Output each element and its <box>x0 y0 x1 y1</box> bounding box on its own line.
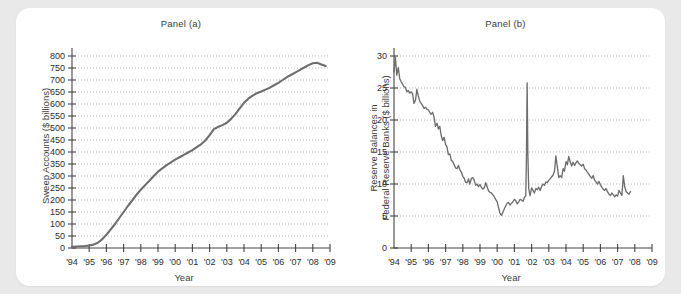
y-tick-label: 10 <box>377 179 387 189</box>
x-tick-label: '02 <box>204 257 216 267</box>
y-tick-label: 400 <box>50 147 65 157</box>
x-tick-label: '99 <box>152 257 164 267</box>
x-tick-label: '94 <box>66 257 78 267</box>
y-tick-label: 600 <box>50 99 65 109</box>
x-tick-label: '01 <box>187 257 199 267</box>
panel-b-x-axis-label: Year <box>366 272 656 283</box>
x-tick-label: '95 <box>405 257 417 267</box>
panel-b-plot: 051015202530'94'95'96'97'98'99'00'01'02'… <box>346 8 665 286</box>
y-tick-label: 25 <box>377 83 387 93</box>
y-tick-label: 0 <box>60 243 65 253</box>
x-tick-label: '08 <box>629 257 641 267</box>
data-series-line <box>72 63 326 247</box>
y-tick-label: 300 <box>50 171 65 181</box>
x-tick-label: '04 <box>560 257 572 267</box>
y-tick-label: 200 <box>50 195 65 205</box>
x-tick-label: '01 <box>509 257 521 267</box>
data-series-line <box>394 57 631 215</box>
x-tick-label: '03 <box>543 257 555 267</box>
y-tick-label: 250 <box>50 183 65 193</box>
x-tick-label: '07 <box>612 257 624 267</box>
x-tick-label: '96 <box>423 257 435 267</box>
x-tick-label: '04 <box>238 257 250 267</box>
x-tick-label: '09 <box>324 257 336 267</box>
x-tick-label: '05 <box>577 257 589 267</box>
x-tick-label: '99 <box>474 257 486 267</box>
x-tick-label: '00 <box>169 257 181 267</box>
y-tick-label: 750 <box>50 63 65 73</box>
panel-b: Panel (b) Reserve Balances in Federal Re… <box>346 8 665 286</box>
y-tick-label: 450 <box>50 135 65 145</box>
x-tick-label: '97 <box>440 257 452 267</box>
y-tick-label: 15 <box>377 147 387 157</box>
x-tick-label: '07 <box>290 257 302 267</box>
y-tick-label: 800 <box>50 51 65 61</box>
y-tick-label: 500 <box>50 123 65 133</box>
x-tick-label: '96 <box>101 257 113 267</box>
figure-card: Panel (a) Sweep Accounts ($ billions) 05… <box>16 8 665 286</box>
panel-a-plot: 0501001502002503003504004505005506006507… <box>16 8 346 286</box>
x-tick-label: '98 <box>457 257 469 267</box>
panel-a-x-axis-label: Year <box>34 272 334 283</box>
y-tick-label: 550 <box>50 111 65 121</box>
y-tick-label: 50 <box>55 231 65 241</box>
y-tick-label: 100 <box>50 219 65 229</box>
x-tick-label: '98 <box>135 257 147 267</box>
x-tick-label: '09 <box>646 257 658 267</box>
x-tick-label: '94 <box>388 257 400 267</box>
y-tick-label: 0 <box>382 243 387 253</box>
x-tick-label: '00 <box>491 257 503 267</box>
x-tick-label: '08 <box>307 257 319 267</box>
x-tick-label: '95 <box>83 257 95 267</box>
x-tick-label: '06 <box>595 257 607 267</box>
y-tick-label: 350 <box>50 159 65 169</box>
y-tick-label: 5 <box>382 211 387 221</box>
x-tick-label: '05 <box>255 257 267 267</box>
x-tick-label: '03 <box>221 257 233 267</box>
x-tick-label: '06 <box>273 257 285 267</box>
y-tick-label: 700 <box>50 75 65 85</box>
y-tick-label: 650 <box>50 87 65 97</box>
y-tick-label: 30 <box>377 51 387 61</box>
x-tick-label: '02 <box>526 257 538 267</box>
x-tick-label: '97 <box>118 257 130 267</box>
panel-a: Panel (a) Sweep Accounts ($ billions) 05… <box>16 8 346 286</box>
y-tick-label: 20 <box>377 115 387 125</box>
y-tick-label: 150 <box>50 207 65 217</box>
